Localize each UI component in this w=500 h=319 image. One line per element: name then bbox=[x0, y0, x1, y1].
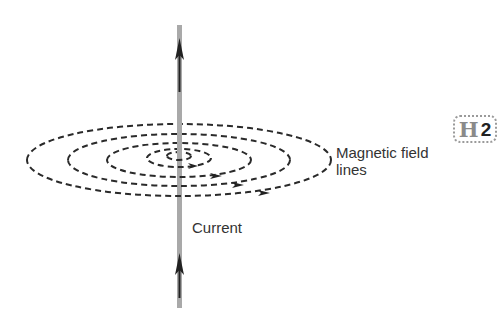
field-label-line1: Magnetic field bbox=[336, 144, 476, 161]
badge-number: 2 bbox=[481, 120, 492, 139]
arrow-icon bbox=[232, 182, 244, 188]
h2-badge: H 2 bbox=[453, 115, 497, 143]
field-label-line2: lines bbox=[336, 161, 476, 178]
badge-letter: H bbox=[459, 119, 479, 140]
current-label: Current bbox=[192, 219, 242, 236]
magnetic-field-lines-label: Magnetic field lines bbox=[336, 144, 476, 178]
arrow-icon bbox=[258, 190, 270, 196]
